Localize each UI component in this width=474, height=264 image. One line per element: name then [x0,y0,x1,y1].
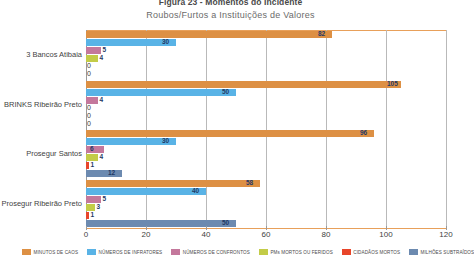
category-label: 3 Bancos Atibaia [26,50,82,59]
legend-label: NÚMEROS DE INFRATORES [99,250,163,255]
bar-value-label: 12 [108,169,115,176]
x-tick-label: 60 [262,230,271,239]
x-axis: 020406080100120 [86,230,446,242]
bar [86,196,101,203]
bar-row: 0 [86,63,446,70]
bar-row: 96 [86,130,446,137]
category-label: Prosegur Santos [26,149,82,158]
x-tick-label: 120 [439,230,452,239]
bar-group: 963064112 [86,130,446,178]
legend-item[interactable]: NÚMEROS DE CONFRONTOS [171,249,250,255]
bar [86,162,89,169]
bar-row: 30 [86,39,446,46]
legend-item[interactable]: NÚMEROS DE INFRATORES [87,249,162,255]
bar-row: 0 [86,121,446,128]
legend-label: NÚMEROS DE CONFRONTOS [183,250,250,255]
legend-swatch [259,249,268,255]
bar-row: 0 [86,113,446,120]
bar-value-label: 3 [97,203,101,210]
bar-group: 584053150 [86,180,446,228]
bar [86,81,401,88]
x-tick-label: 0 [84,230,88,239]
bar-value-label: 6 [90,145,94,152]
bar-row: 4 [86,55,446,62]
x-tick-label: 100 [379,230,392,239]
bar-row: 6 [86,146,446,153]
legend-item[interactable]: PMs MORTOS OU FERIDOS [259,249,333,255]
bar-value-label: 82 [318,30,325,37]
bar [86,89,236,96]
bar-row: 5 [86,196,446,203]
bar-value-label: 50 [222,219,229,226]
category-label: Prosegur Ribeirão Preto [2,199,82,208]
bar-row: 4 [86,154,446,161]
bar [86,188,206,195]
bar-row: 82 [86,31,446,38]
legend-swatch [171,249,180,255]
legend-label: MILHÕES SUBTRAÍDOS [421,250,474,255]
bar-value-label: 96 [360,129,367,136]
bar-row: 105 [86,81,446,88]
bar-value-label: 0 [87,120,91,127]
bar-value-label: 0 [87,112,91,119]
bar [86,180,260,187]
bar-row: 3 [86,204,446,211]
bar [86,220,236,227]
bar-value-label: 0 [87,70,91,77]
legend-swatch [342,249,351,255]
legend-label: CIDADÃOS MORTOS [353,250,400,255]
x-tick-label: 20 [142,230,151,239]
bar-row: 30 [86,138,446,145]
bar-value-label: 40 [192,187,199,194]
bar-value-label: 0 [87,62,91,69]
bar [86,130,374,137]
bar-row: 4 [86,97,446,104]
bar-value-label: 5 [103,46,107,53]
bar-value-label: 1 [91,211,95,218]
bar [86,47,101,54]
legend-item[interactable]: MINUTOS DE CAOS [22,249,78,255]
bar-value-label: 1 [91,161,95,168]
legend-item[interactable]: MILHÕES SUBTRAÍDOS [409,249,474,255]
x-tick-label: 80 [322,230,331,239]
bar [86,170,122,177]
legend-item[interactable]: CIDADÃOS MORTOS [342,249,400,255]
bar [86,154,98,161]
legend-swatch [22,249,31,255]
bar-row: 5 [86,47,446,54]
bar-row: 58 [86,180,446,187]
bar-row: 1 [86,212,446,219]
bar-row: 1 [86,162,446,169]
bar-group: 105504000 [86,81,446,129]
bar-row: 12 [86,170,446,177]
bar-group: 82305400 [86,31,446,79]
bar [86,146,104,153]
bar-value-label: 0 [87,104,91,111]
bar-value-label: 58 [246,179,253,186]
category-axis: 3 Bancos AtibaiaBRINKS Ribeirão PretoPro… [0,30,82,229]
chart-subtitle: Roubos/Furtos a Instituições de Valores [0,10,461,20]
bar-value-label: 4 [100,96,104,103]
bar [86,212,89,219]
bar-value-label: 4 [100,54,104,61]
bar-value-label: 105 [387,80,398,87]
chart-legend: MINUTOS DE CAOSNÚMEROS DE INFRATORESNÚME… [22,247,442,257]
bar [86,31,332,38]
bar-value-label: 30 [162,38,169,45]
legend-swatch [409,249,418,255]
legend-swatch [87,249,96,255]
bar-row: 0 [86,71,446,78]
bar [86,97,98,104]
bar-value-label: 4 [100,153,104,160]
plot-area: 82305400105504000963064112584053150 [86,30,446,229]
legend-label: PMs MORTOS OU FERIDOS [270,250,332,255]
chart-title: Figura 23 - Momentos do Incidente [0,0,461,7]
bar [86,55,98,62]
bar-row: 40 [86,188,446,195]
grid-line [446,30,447,229]
category-label: BRINKS Ribeirão Preto [4,100,82,109]
bar-row: 50 [86,89,446,96]
bar [86,204,95,211]
bar-value-label: 30 [162,137,169,144]
